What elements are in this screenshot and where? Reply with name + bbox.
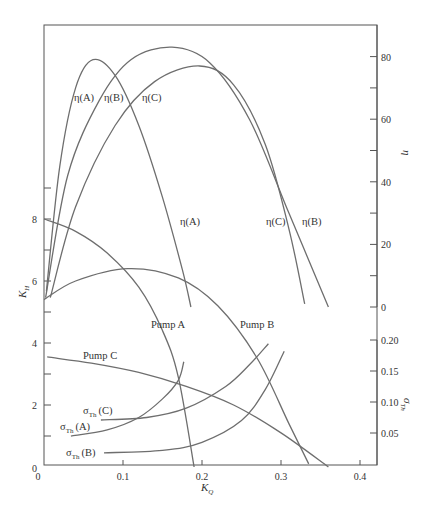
curve-th-b <box>104 351 284 453</box>
left-tick-label: 4 <box>32 338 37 349</box>
label-eta-a-top: η(A) <box>74 92 95 104</box>
eta-tick-label: 0 <box>381 302 386 313</box>
sigma-tick-label: 0.10 <box>381 397 399 408</box>
curve-th-c <box>101 344 269 420</box>
sigma-tick-label: 0.15 <box>381 366 399 377</box>
label-sigma-b: σTh(B) <box>66 447 96 461</box>
sigma-tick-label: 0.20 <box>381 335 399 346</box>
x-axis-title: KQ <box>200 481 213 496</box>
label-eta-c-top: η(C) <box>142 92 162 104</box>
pump-performance-chart: 00.10.20.30.4246800204060800.050.100.150… <box>0 0 437 519</box>
right-lower-axis-title: σTh <box>399 398 414 411</box>
x-tick-label: 0.3 <box>275 471 288 482</box>
label-eta-b-bottom: η(B) <box>302 216 322 228</box>
sigma-tick-label: 0.05 <box>381 428 399 439</box>
right-upper-axis-title: η <box>401 150 413 155</box>
eta-tick-label: 60 <box>381 114 391 125</box>
label-pump-b: Pump B <box>240 319 274 330</box>
left-tick-label: 6 <box>32 276 37 287</box>
x-tick-label: 0.1 <box>117 471 130 482</box>
label-eta-c-bottom: η(C) <box>266 216 286 228</box>
label-pump-c: Pump C <box>83 350 117 361</box>
left-tick-label: 8 <box>32 214 37 225</box>
label-pump-a: Pump A <box>151 319 186 330</box>
eta-tick-label: 80 <box>381 52 391 63</box>
eta-tick-label: 20 <box>381 239 391 250</box>
plot-frame <box>44 25 377 465</box>
label-sigma-a: σTh(A) <box>60 421 91 435</box>
axis-ticks: 00.10.20.30.4246800204060800.050.100.150… <box>32 52 399 482</box>
left-tick-label: 0 <box>32 463 37 474</box>
x-tick-label: 0.4 <box>354 471 367 482</box>
label-sigma-c: σTh(C) <box>83 405 113 419</box>
left-axis-title: KH <box>16 285 31 299</box>
left-tick-label: 2 <box>32 400 37 411</box>
eta-tick-label: 40 <box>381 177 391 188</box>
label-eta-a-bottom: η(A) <box>180 216 201 228</box>
label-eta-b-top: η(B) <box>104 92 124 104</box>
